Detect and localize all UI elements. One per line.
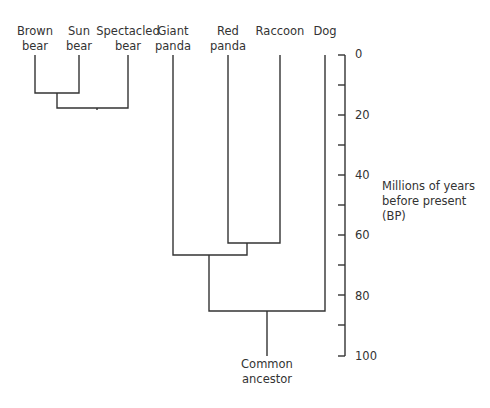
taxon-line2: panda (203, 39, 253, 54)
taxon-line2: panda (148, 39, 198, 54)
axis-title-line1: Millions of years (382, 179, 490, 194)
tick-label-0: 0 (355, 47, 362, 61)
taxon-label-dog: Dog (305, 24, 345, 39)
taxon-line1: Red (203, 24, 253, 39)
taxon-line1: Raccoon (250, 24, 310, 39)
taxon-line1: Giant (148, 24, 198, 39)
tree-branches (35, 55, 325, 356)
tick-label-100: 100 (355, 349, 377, 363)
taxon-label-raccoon: Raccoon (250, 24, 310, 39)
taxon-line1: Dog (305, 24, 345, 39)
taxon-label-red-panda: Red panda (203, 24, 253, 54)
axis-title: Millions of years before present (BP) (382, 179, 490, 224)
tick-label-80: 80 (355, 289, 370, 303)
tick-label-20: 20 (355, 108, 370, 122)
axis-title-line2: before present (382, 194, 490, 209)
time-axis (338, 55, 345, 356)
tick-label-60: 60 (355, 228, 370, 242)
tick-label-40: 40 (355, 168, 370, 182)
root-line1: Common (232, 357, 302, 372)
axis-title-line3: (BP) (382, 209, 490, 224)
root-label: Common ancestor (232, 357, 302, 387)
root-line2: ancestor (232, 372, 302, 387)
taxon-label-giant-panda: Giant panda (148, 24, 198, 54)
